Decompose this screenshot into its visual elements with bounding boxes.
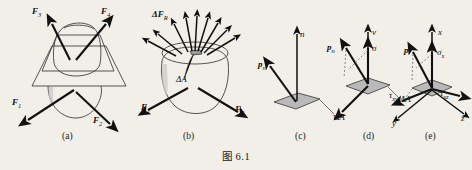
figure-caption: 图 6.1: [0, 148, 472, 163]
axis-z-symbol: z: [461, 113, 465, 123]
panel-e-label-tau-xy: τxy: [389, 91, 398, 102]
force-f4-subscript: 4: [107, 11, 110, 18]
shear-stress-tau-symbol: τ: [333, 111, 336, 121]
resultant-delta-fr-subscript: R: [164, 14, 168, 21]
normal-stress-sigma-x-subscript: x: [441, 52, 444, 59]
panel-e-label-sigma-x: σx: [437, 48, 444, 59]
panel-d-label-pn: pn: [327, 43, 335, 54]
shear-stress-tau-xy-subscript: xy: [392, 95, 398, 102]
panel-b-label-delta-a: ΔA: [176, 75, 187, 84]
shear-stress-tau-xz-subscript: xz: [443, 93, 448, 100]
resultant-delta-fr-symbol: ΔF: [152, 9, 164, 19]
panel-b-label-delta-fr: ΔFR: [152, 10, 168, 21]
panel-c-sublabel: (c): [295, 131, 306, 141]
panel-b-label-f1: F1: [141, 103, 150, 114]
panel-a-sublabel: (a): [62, 131, 73, 141]
normal-n-symbol: n: [300, 29, 305, 39]
force-f1-subscript-b: 1: [147, 107, 150, 114]
panel-e-label-x: x: [438, 28, 442, 37]
axis-y-symbol: y: [392, 118, 396, 128]
panel-c-label-n: n: [300, 30, 305, 39]
panel-e-graphic: [392, 26, 472, 131]
figure-container: F3 F4 F1 F2 (a): [0, 0, 472, 170]
panel-b-sublabel: (b): [183, 131, 194, 141]
panel-e-label-p: p: [404, 46, 409, 55]
panel-b-label-f2: F2: [235, 105, 244, 116]
panel-d-label-tau: τ: [333, 112, 336, 121]
force-f2-subscript-b: 2: [241, 109, 244, 116]
axis-x-symbol: x: [438, 27, 442, 37]
area-delta-a-symbol: ΔA: [176, 74, 187, 84]
panel-d-label-v: v: [372, 28, 376, 37]
panel-e-sublabel: (e): [425, 131, 436, 141]
panel-e-label-tau-xz: τxz: [440, 89, 449, 100]
normal-stress-sigma-symbol: σ: [372, 43, 376, 53]
stress-vector-pn-subscript: n: [263, 64, 266, 71]
panel-d-label-sigma: σ: [372, 44, 376, 53]
panel-a-label-f3: F3: [32, 7, 41, 18]
force-f1-subscript: 1: [18, 102, 21, 109]
panel-a-label-f4: F4: [101, 7, 110, 18]
force-f2-subscript: 2: [99, 120, 102, 127]
panel-c-label-pn: pn: [258, 60, 266, 71]
panel-d-sublabel: (d): [363, 131, 374, 141]
normal-v-symbol: v: [372, 27, 376, 37]
panel-a-label-f1: F1: [12, 98, 21, 109]
stress-vector-pn-subscript-d: n: [332, 47, 335, 54]
panel-a-label-f2: F2: [93, 116, 102, 127]
panel-e-label-z: z: [461, 114, 465, 123]
panel-a-graphic: [14, 8, 144, 128]
force-f3-subscript: 3: [38, 11, 41, 18]
panel-e-label-y: y: [392, 119, 396, 128]
stress-vector-p-symbol: p: [404, 45, 409, 55]
